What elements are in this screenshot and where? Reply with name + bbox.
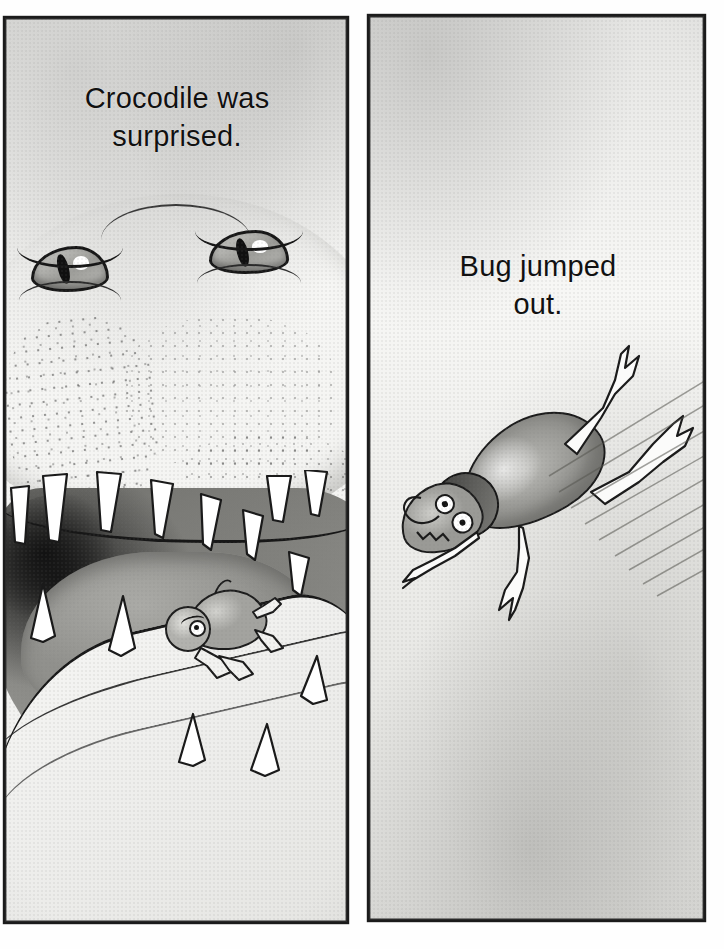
tooth-lower-5 [301,656,327,704]
tooth-upper-7 [267,476,291,522]
speed-line-5 [599,458,704,540]
caption-right-line-2: out. [392,286,684,324]
caption-right-line-1: Bug jumped [392,248,684,286]
panel-crocodile: Crocodile was surprised. [5,18,347,922]
speed-line-4 [585,436,704,524]
tooth-upper-4 [151,480,173,538]
tooth-lower-3 [179,714,205,766]
caption-left: Crocodile was surprised. [27,80,327,155]
eyelid-lower-right [197,264,301,302]
comic-spread: Crocodile was surprised. [0,0,724,949]
eyelid-upper-left [17,226,122,267]
caption-right: Bug jumped out. [392,248,684,323]
tooth-lower-1 [31,584,55,642]
speed-line-2 [559,388,704,492]
tooth-upper-8 [305,470,327,516]
tooth-upper-6 [243,510,263,560]
tooth-upper-5 [201,494,221,550]
eyelid-upper-right [195,211,303,251]
panel-bug: Bug jumped out. [369,16,704,920]
eyelid-lower-left [19,281,121,320]
tooth-lower-4 [251,724,279,776]
tooth-lower-2 [109,596,135,656]
tooth-upper-2 [43,474,67,542]
speed-line-6 [615,482,704,556]
motion-speed-lines [429,346,704,676]
caption-left-line-2: surprised. [27,118,327,156]
speed-line-1 [549,366,704,476]
speed-line-7 [629,504,704,570]
crocodile-eye-left [23,240,117,302]
tooth-upper-1 [11,486,29,544]
caption-left-line-1: Crocodile was [27,80,327,118]
tooth-upper-3 [97,472,121,532]
crocodile-eye-right [201,224,297,284]
teeth-row-lower [5,578,347,788]
